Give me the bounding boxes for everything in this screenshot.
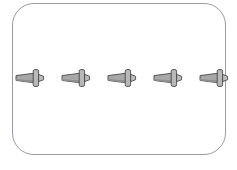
rivet-icon-2[interactable] [62,68,94,88]
rivet-icon-5[interactable] [200,68,232,88]
rivet-icon [62,68,94,88]
rivet-icon-4[interactable] [154,68,186,88]
rivet-icon [200,68,232,88]
rivet-icon [16,68,48,88]
rivet-icon [108,68,140,88]
rivet-icon-3[interactable] [108,68,140,88]
rivet-icon [154,68,186,88]
screenshot-canvas [0,0,237,170]
rivet-icon-1[interactable] [16,68,48,88]
